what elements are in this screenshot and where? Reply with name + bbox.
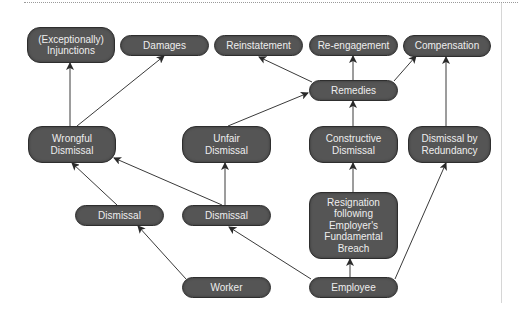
node-label: Dismissal: [98, 210, 141, 222]
edge-employee-to-redundancy: [395, 163, 446, 279]
node-reinstatement: Reinstatement: [214, 35, 303, 56]
node-label: Dismissal: [205, 210, 248, 222]
node-resignation-breach: Resignation following Employer's Fundame…: [309, 192, 398, 259]
node-reengagement: Re-engagement: [309, 35, 398, 56]
node-label: Constructive Dismissal: [326, 133, 382, 156]
node-employee: Employee: [309, 277, 398, 298]
edge-wrongful-to-damages: [77, 56, 164, 126]
node-label: Worker: [210, 282, 242, 294]
node-wrongful-dismissal: Wrongful Dismissal: [28, 126, 116, 163]
node-label: Dismissal by Redundancy: [421, 133, 477, 156]
node-worker: Worker: [182, 277, 271, 298]
node-label: Unfair Dismissal: [205, 133, 248, 156]
node-label: Compensation: [415, 40, 479, 52]
node-label: Re-engagement: [318, 40, 390, 52]
node-label: Resignation following Employer's Fundame…: [324, 197, 382, 255]
node-remedies: Remedies: [309, 80, 398, 101]
node-dismissal-left: Dismissal: [75, 205, 164, 226]
node-compensation: Compensation: [403, 35, 491, 57]
node-label: Wrongful Dismissal: [51, 133, 94, 156]
node-label: Damages: [143, 40, 186, 52]
node-label: (Exceptionally) Injunctions: [38, 34, 104, 57]
edge-dismissal-left-to-wrongful: [72, 163, 117, 205]
edge-worker-to-dismissal-left: [138, 226, 186, 279]
node-injunctions: (Exceptionally) Injunctions: [27, 27, 115, 63]
node-label: Reinstatement: [226, 40, 290, 52]
edge-remedies-to-reinstatement: [259, 57, 312, 82]
node-dismissal-by-redundancy: Dismissal by Redundancy: [408, 126, 491, 163]
node-constructive-dismissal: Constructive Dismissal: [309, 126, 398, 163]
edge-unfair-to-remedies: [228, 93, 308, 126]
node-unfair-dismissal: Unfair Dismissal: [182, 126, 271, 163]
edge-remedies-to-compensation: [394, 56, 416, 81]
node-label: Remedies: [331, 85, 376, 97]
node-label: Employee: [331, 282, 375, 294]
edge-dismissal-right-to-wrongful: [114, 158, 222, 205]
node-dismissal-right: Dismissal: [182, 205, 271, 226]
edge-employee-to-dismissal-right: [229, 227, 311, 279]
node-damages: Damages: [120, 35, 209, 56]
